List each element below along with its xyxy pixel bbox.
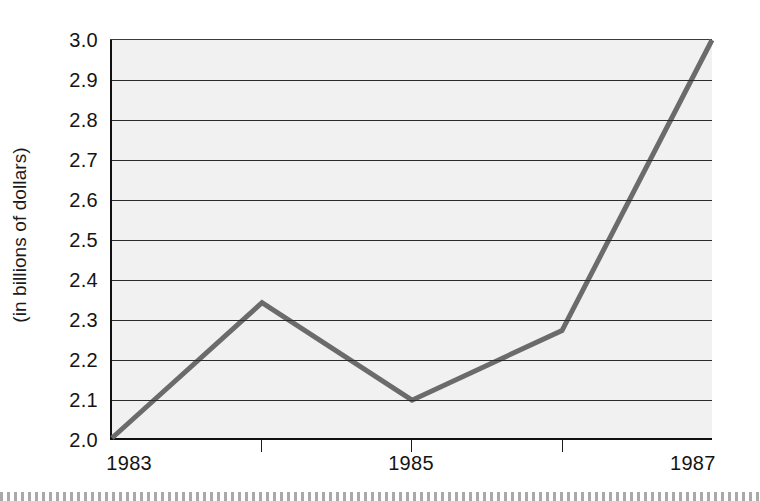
x-axis-tick-mark <box>562 440 563 452</box>
bottom-dotted-strip <box>0 492 760 501</box>
series-polyline <box>112 40 712 438</box>
y-axis-tick-label: 2.6 <box>69 189 98 212</box>
y-axis-tick-label: 2.8 <box>69 109 98 132</box>
x-axis-tick-mark <box>411 440 412 452</box>
y-axis-tick-label: 2.4 <box>69 269 98 292</box>
data-series-line <box>112 40 712 438</box>
gridline <box>112 240 712 241</box>
gridline <box>112 120 712 121</box>
gridline <box>112 200 712 201</box>
y-axis-tick-label: 2.7 <box>69 149 98 172</box>
y-axis-tick-label: 2.5 <box>69 229 98 252</box>
y-axis-tick-label: 2.2 <box>69 349 98 372</box>
y-axis-tick-label: 2.1 <box>69 389 98 412</box>
x-axis-tick-label: 1985 <box>388 452 434 475</box>
y-axis-tick-label: 2.9 <box>69 69 98 92</box>
y-axis-tick-labels: 3.02.92.82.72.62.52.42.32.22.12.0 <box>36 40 104 440</box>
x-axis-tick-label: 1987 <box>670 452 716 475</box>
gridline <box>112 320 712 321</box>
x-axis-tick-mark <box>261 440 262 452</box>
y-axis-title-text: (in billions of dollars) <box>9 147 31 323</box>
chart-figure: (in billions of dollars) 3.02.92.82.72.6… <box>0 0 760 501</box>
gridline <box>112 80 712 81</box>
y-axis-tick-label: 2.0 <box>69 429 98 452</box>
plot-area <box>110 40 712 440</box>
gridline <box>112 360 712 361</box>
gridline <box>112 280 712 281</box>
x-axis-tick-label: 1983 <box>106 452 152 475</box>
y-axis-tick-label: 2.3 <box>69 309 98 332</box>
y-axis-tick-label: 3.0 <box>69 29 98 52</box>
gridline <box>112 160 712 161</box>
y-axis-title: (in billions of dollars) <box>0 0 40 470</box>
gridline <box>112 400 712 401</box>
